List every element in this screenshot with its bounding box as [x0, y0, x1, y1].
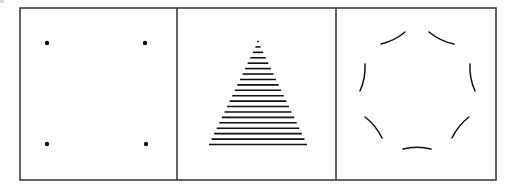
circle-arc-left: [360, 64, 365, 91]
dot: [143, 41, 147, 45]
panel-dashed-circle: [360, 32, 475, 149]
circle-arc-top-left: [381, 32, 405, 44]
dot: [144, 142, 148, 146]
circle-arc-right: [470, 64, 475, 91]
panel-triangle: [209, 42, 307, 145]
dot: [45, 142, 49, 146]
panel-frame: [20, 8, 496, 180]
circle-arc-top-right: [429, 32, 454, 44]
gestalt-figure: [0, 0, 508, 195]
outer-frame: [20, 8, 496, 180]
circle-arc-bottom: [403, 147, 431, 149]
circle-arc-lower-right: [452, 117, 469, 138]
dot: [45, 41, 49, 45]
panel-dots: [45, 41, 148, 146]
circle-arc-lower-left: [365, 117, 382, 138]
